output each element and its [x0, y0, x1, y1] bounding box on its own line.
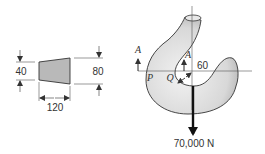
point-label-p: P: [146, 72, 153, 83]
section-arrow-left: A: [134, 44, 142, 71]
load-label: 70,000 N: [174, 138, 215, 149]
trapezoid-section: [39, 58, 70, 84]
crane-hook: A A 60 P Q 70,000 N: [134, 6, 252, 149]
radius-label-60: 60: [197, 60, 209, 71]
point-label-q: Q: [166, 72, 174, 83]
dimension-80: 80: [74, 46, 104, 96]
dimension-label-40: 40: [15, 66, 27, 77]
hook-shank-top: [185, 15, 201, 21]
section-arrow-inner: A: [184, 49, 192, 71]
section-label-a-left: A: [134, 44, 142, 55]
dimension-120: 120: [39, 82, 70, 113]
crane-hook-diagram: 40 80 120 A: [0, 0, 265, 154]
section-label-a-right: A: [184, 49, 192, 60]
dimension-label-80: 80: [92, 66, 104, 77]
dimension-40: 40: [15, 50, 35, 92]
dimension-label-120: 120: [47, 102, 64, 113]
radius-dimension: 60: [178, 60, 209, 83]
cross-section: 40 80 120: [15, 46, 104, 113]
